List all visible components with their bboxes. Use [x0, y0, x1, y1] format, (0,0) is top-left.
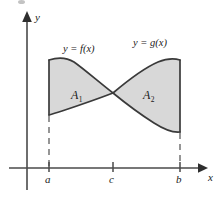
figure-container: y x y = f(x) y = g(x) A1 A2 a c b [0, 0, 223, 202]
region-label-a1-sub: 1 [79, 95, 83, 104]
curve-label-f: y = f(x) [63, 44, 95, 55]
tick-label-c: c [109, 174, 114, 185]
region-label-a1-base: A [71, 88, 78, 102]
curve-label-g: y = g(x) [133, 38, 167, 49]
y-axis-arrowhead [22, 11, 32, 22]
x-axis-arrowhead [198, 163, 208, 173]
x-axis-label: x [208, 172, 213, 183]
region-label-a2: A2 [143, 89, 154, 101]
figure-canvas [0, 0, 223, 202]
region-label-a2-base: A [143, 88, 150, 102]
region-label-a1: A1 [71, 89, 82, 101]
y-axis-label: y [35, 12, 40, 23]
tick-label-a: a [45, 174, 51, 185]
tick-label-b: b [176, 174, 182, 185]
region-label-a2-sub: 2 [151, 95, 155, 104]
